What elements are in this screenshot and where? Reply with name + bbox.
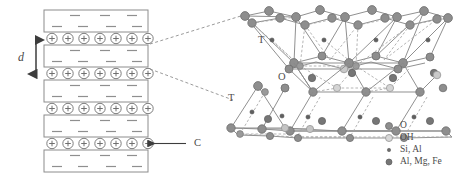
atom-si-al-marker [387, 148, 390, 151]
connector-lines [150, 15, 244, 100]
atom-al-mg-fe-marker [386, 159, 392, 165]
platelet-1 [44, 10, 148, 32]
legend-label-o: O [400, 121, 407, 131]
tetrahedral-sheet-upper [241, 6, 453, 73]
legend-markers [386, 123, 393, 166]
platelet-4 [44, 115, 148, 137]
tetrahedral-label-upper: T [258, 35, 264, 46]
c-label: C [194, 138, 201, 149]
d-spacing-label: d [18, 51, 24, 63]
platelet-stack [36, 10, 186, 172]
clay-structure-figure: d C T O T O OH Si, Al Al, Mg, Fe [0, 0, 461, 176]
atom-o-marker [386, 123, 393, 130]
crystal-structure [227, 6, 453, 142]
atom-group-t-lower-basal [227, 124, 450, 142]
cation-row-2 [47, 68, 153, 78]
atom-group-t-upper-basal [285, 52, 434, 73]
octahedral-label: O [278, 72, 286, 83]
octahedral-sheet [289, 63, 447, 96]
cation-row-1 [47, 33, 153, 43]
atom-group-t-lower-si-al [250, 110, 416, 119]
atom-oh-marker [386, 135, 393, 142]
platelet-3 [44, 80, 148, 102]
legend-label-al-mg-fe: Al, Mg, Fe [400, 157, 442, 167]
legend-label-oh: OH [400, 133, 414, 143]
cation-row-4 [47, 138, 153, 148]
tetrahedral-label-lower: T [228, 93, 234, 104]
cation-row-3 [47, 103, 153, 113]
figure-canvas [0, 0, 461, 176]
platelet-5 [44, 150, 148, 172]
platelet-2 [44, 45, 148, 67]
atom-group-t-lower-apical [254, 82, 289, 96]
atom-group-t-upper-si-al [270, 38, 430, 42]
legend-label-si-al: Si, Al [400, 145, 422, 155]
connector-lower [150, 69, 233, 100]
connector-upper [150, 15, 244, 44]
